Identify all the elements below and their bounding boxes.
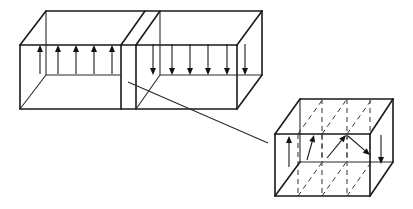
arrow-head-icon bbox=[286, 136, 292, 143]
arrow-head-icon bbox=[109, 45, 115, 52]
plane-top-slant-dashed bbox=[347, 99, 372, 134]
large-domain-box bbox=[20, 11, 262, 109]
down-arrow-icon bbox=[187, 44, 193, 75]
plane-bottom-slant-dashed bbox=[298, 161, 323, 196]
spin-arrow-tilted-icon bbox=[307, 135, 315, 160]
plane-top-slant-dashed bbox=[298, 99, 323, 134]
arrow-head-icon bbox=[150, 68, 156, 75]
arrow-shaft bbox=[307, 142, 312, 160]
plane-bottom-slant-dashed bbox=[322, 161, 347, 196]
depth-edge-top-left bbox=[275, 99, 300, 134]
depth-edge-bottom-left bbox=[275, 162, 300, 196]
arrow-head-icon bbox=[37, 45, 43, 52]
magnification-connector-line bbox=[128, 82, 268, 143]
domain-wall-diagram bbox=[0, 0, 413, 209]
down-arrow-icon bbox=[224, 44, 230, 75]
plane-bottom-slant-dashed bbox=[347, 161, 372, 196]
magnified-wall-box bbox=[275, 99, 393, 196]
arrow-head-icon bbox=[169, 68, 175, 75]
up-arrow-icon bbox=[91, 45, 97, 74]
depth-edge-top-left bbox=[20, 11, 46, 45]
arrow-head-icon bbox=[187, 68, 193, 75]
spin-arrow-tilted-more-icon bbox=[327, 135, 346, 158]
up-arrow-icon bbox=[55, 45, 61, 74]
wall-top-slant-right bbox=[136, 11, 160, 45]
down-arrow-icon bbox=[150, 44, 156, 75]
wall-top-slant-left bbox=[121, 11, 145, 45]
down-arrow-icon bbox=[205, 44, 211, 75]
depth-edge-bottom-right bbox=[370, 162, 393, 196]
arrow-head-icon bbox=[309, 135, 315, 143]
arrow-shaft bbox=[327, 140, 342, 158]
down-arrow-icon bbox=[169, 44, 175, 75]
left-domain-up-arrows bbox=[37, 45, 115, 74]
arrow-head-icon bbox=[242, 68, 248, 75]
spin-arrow-down-icon bbox=[378, 135, 384, 164]
arrow-head-icon bbox=[205, 68, 211, 75]
arrow-head-icon bbox=[91, 45, 97, 52]
depth-edge-top-right bbox=[237, 11, 262, 45]
spin-arrow-tilted-down-icon bbox=[348, 136, 370, 155]
depth-edge-top-right bbox=[370, 99, 393, 134]
arrow-head-icon bbox=[378, 157, 384, 164]
diagram-svg bbox=[0, 0, 413, 209]
up-arrow-icon bbox=[37, 45, 43, 74]
arrow-head-icon bbox=[224, 68, 230, 75]
down-arrow-icon bbox=[242, 44, 248, 75]
right-domain-down-arrows bbox=[150, 44, 248, 75]
wall-bottom-slant bbox=[136, 75, 160, 109]
arrow-head-icon bbox=[55, 45, 61, 52]
connector-line bbox=[128, 82, 268, 143]
up-arrow-icon bbox=[73, 45, 79, 74]
spin-arrow-up-icon bbox=[286, 136, 292, 167]
depth-edge-bottom-right bbox=[237, 75, 262, 109]
depth-edge-bottom-left bbox=[20, 75, 46, 109]
arrow-shaft bbox=[348, 136, 365, 150]
arrow-head-icon bbox=[73, 45, 79, 52]
plane-top-slant-dashed bbox=[322, 99, 347, 134]
up-arrow-icon bbox=[109, 45, 115, 74]
